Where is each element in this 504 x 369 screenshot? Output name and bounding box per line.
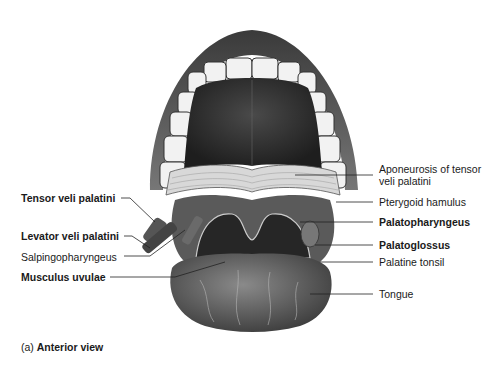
label-palatine-tonsil: Palatine tonsil [379, 256, 444, 268]
label-aponeurosis-line1: Aponeurosis of tensor [379, 163, 481, 175]
label-aponeurosis-line2: veli palatini [379, 175, 431, 187]
label-tongue: Tongue [379, 288, 413, 300]
hard-palate [184, 78, 322, 170]
caption-title: Anterior view [37, 341, 104, 353]
label-palatoglossus: Palatoglossus [379, 239, 450, 251]
anatomy-figure: Tensor veli palatini Levator veli palati… [0, 0, 504, 369]
label-palatopharyngeus: Palatopharyngeus [379, 216, 470, 228]
label-tensor-veli-palatini: Tensor veli palatini [21, 192, 115, 204]
label-levator-veli-palatini: Levator veli palatini [21, 230, 119, 242]
label-pterygoid-hamulus: Pterygoid hamulus [379, 196, 466, 208]
label-musculus-uvulae: Musculus uvulae [21, 271, 106, 283]
figure-caption: (a) Anterior view [21, 341, 103, 353]
tongue [170, 253, 331, 332]
caption-prefix: (a) [21, 341, 34, 353]
label-salpingopharyngeus: Salpingopharyngeus [21, 251, 117, 263]
